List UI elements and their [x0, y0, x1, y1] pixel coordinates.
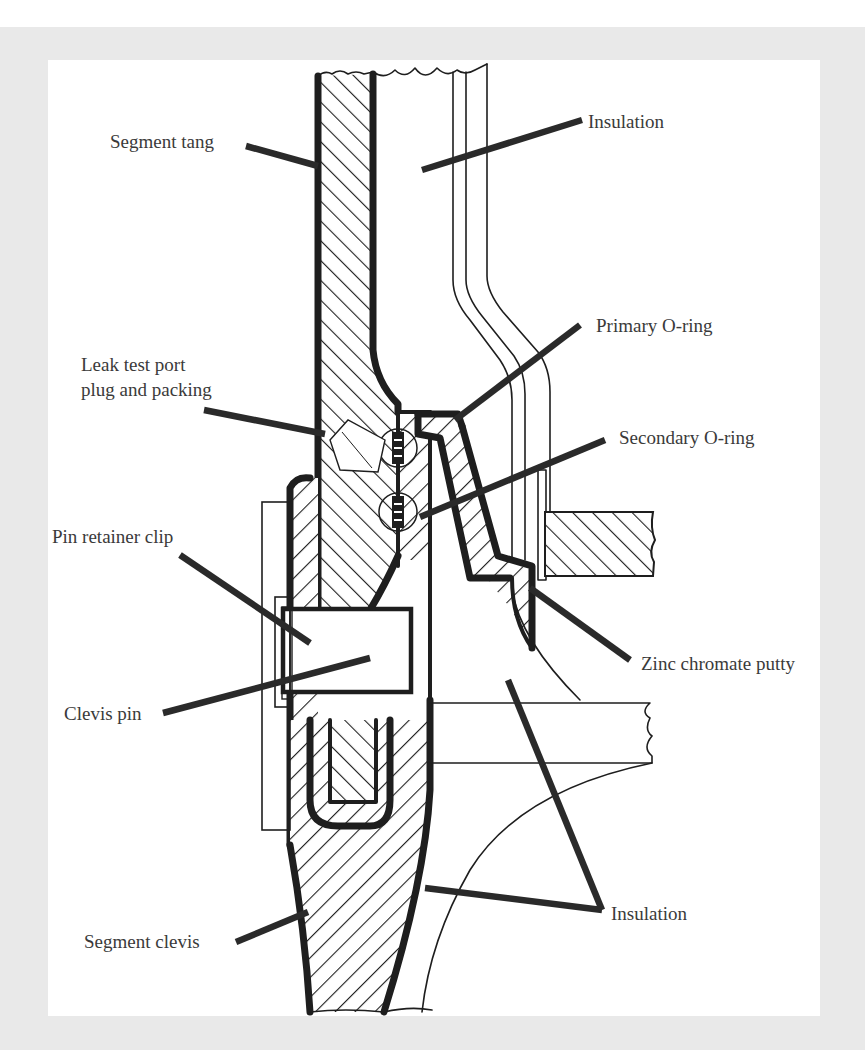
label-segment-tang: Segment tang: [110, 131, 214, 152]
label-primary-o-ring: Primary O-ring: [596, 315, 713, 336]
label-leak-test-port-line2: plug and packing: [81, 379, 212, 400]
clevis-pin: [283, 609, 411, 692]
label-insulation-bottom: Insulation: [611, 903, 687, 924]
label-segment-clevis: Segment clevis: [84, 931, 200, 952]
label-secondary-o-ring: Secondary O-ring: [619, 427, 755, 448]
label-leak-test-port-line1: Leak test port: [81, 354, 186, 375]
label-clevis-pin: Clevis pin: [64, 703, 142, 724]
flange-block: [545, 512, 655, 576]
field-joint-diagram: Segment tang Insulation Primary O-ring L…: [0, 0, 865, 1050]
label-insulation-top: Insulation: [588, 111, 664, 132]
label-zinc-chromate-putty: Zinc chromate putty: [641, 653, 796, 674]
label-pin-retainer-clip: Pin retainer clip: [52, 526, 173, 547]
